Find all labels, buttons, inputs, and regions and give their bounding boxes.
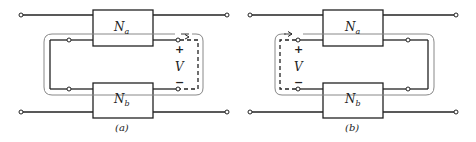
plus-sign: +	[175, 43, 184, 56]
terminal-icon	[454, 13, 458, 17]
label-nb-main: N	[113, 92, 125, 106]
terminal-icon	[248, 13, 252, 17]
minus-sign: −	[175, 76, 184, 89]
terminal-icon	[19, 13, 23, 17]
plus-sign: +	[294, 43, 303, 56]
label-na-main: N	[113, 20, 125, 34]
terminal-icon	[454, 110, 458, 114]
terminal-icon	[176, 38, 180, 42]
circuit-diagram: Na Nb + V − (a)	[0, 0, 476, 142]
terminal-icon	[19, 110, 23, 114]
terminal-icon	[67, 87, 71, 91]
minus-sign: −	[294, 76, 303, 89]
terminal-icon	[225, 110, 229, 114]
terminal-icon	[406, 38, 410, 42]
label-na-sub: a	[125, 27, 130, 36]
caption-a: (a)	[115, 122, 129, 133]
label-na-main: N	[344, 20, 356, 34]
label-nb-sub: b	[125, 99, 130, 108]
label-nb-sub: b	[356, 99, 361, 108]
arrow-icon	[185, 35, 189, 40]
voltage-label: V	[175, 60, 185, 74]
voltage-label: V	[294, 60, 304, 74]
label-nb-main: N	[344, 92, 356, 106]
terminal-icon	[67, 38, 71, 42]
label-na-sub: a	[356, 27, 361, 36]
terminal-icon	[225, 13, 229, 17]
caption-b: (b)	[345, 122, 359, 133]
terminal-icon	[296, 38, 300, 42]
terminal-icon	[248, 110, 252, 114]
terminal-icon	[406, 87, 410, 91]
